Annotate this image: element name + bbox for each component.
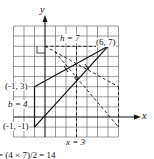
point-label-neg1-neg1: (-1, -1) xyxy=(3,122,29,131)
base-label: b = 4 xyxy=(8,100,28,109)
y-axis-label: y xyxy=(40,5,44,15)
vertical-line-label: x = 3 xyxy=(66,138,85,147)
dashed-lines xyxy=(45,46,119,137)
y-axis-arrow-icon xyxy=(43,15,48,22)
point-label-neg1-3: (-1, 3) xyxy=(5,82,28,91)
point-label-6-7: (6, 7) xyxy=(96,38,116,47)
right-angle-marker xyxy=(37,46,45,53)
area-formula: = (4 × 7)/2 = 14 xyxy=(0,151,55,159)
x-axis-arrow-icon xyxy=(134,115,141,120)
x-axis-label: x xyxy=(142,111,146,121)
height-label: h = 7 xyxy=(60,34,80,43)
coordinate-grid-diagram xyxy=(0,0,154,159)
